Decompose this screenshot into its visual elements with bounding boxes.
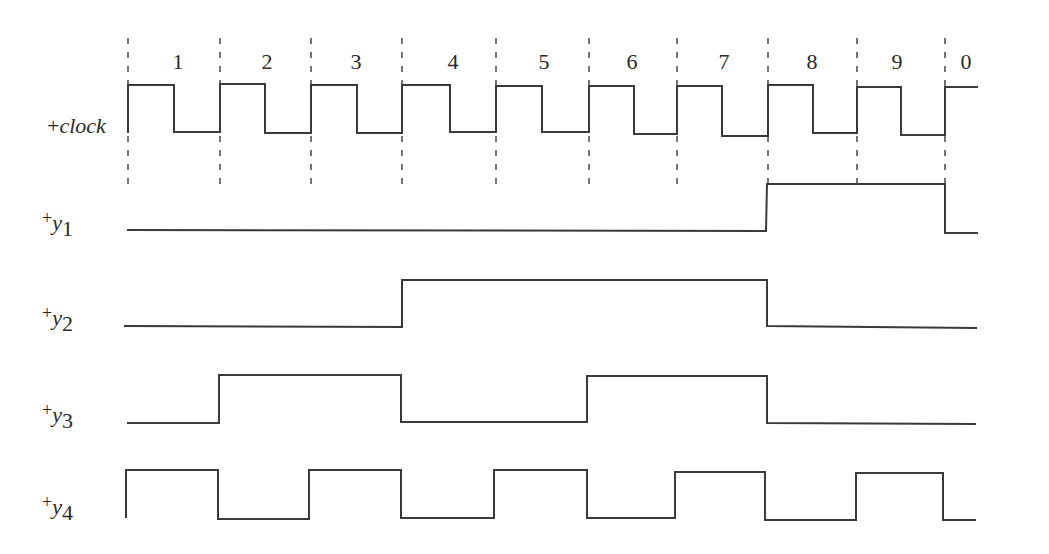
y4-waveform bbox=[126, 470, 976, 520]
y1-waveform bbox=[127, 184, 978, 233]
period-labels: 1 2 3 4 5 6 7 8 9 0 bbox=[173, 49, 972, 74]
period-label: 8 bbox=[807, 49, 818, 74]
signal-label-y1: +y1 bbox=[42, 208, 73, 241]
period-label: 3 bbox=[351, 49, 362, 74]
y2-waveform bbox=[124, 280, 977, 328]
period-label: 6 bbox=[627, 49, 638, 74]
period-label: 4 bbox=[448, 49, 459, 74]
timing-diagram: 1 2 3 4 5 6 7 8 9 0 +clock +y1 +y2 +y3 +… bbox=[0, 0, 1049, 554]
signal-label-y3: +y3 bbox=[42, 400, 73, 433]
signal-label-clock: +clock bbox=[47, 113, 107, 138]
clock-edge-guides bbox=[128, 38, 945, 192]
signal-label-y2: +y2 bbox=[42, 303, 73, 336]
y3-waveform bbox=[127, 375, 976, 424]
period-label: 7 bbox=[719, 49, 730, 74]
period-label: 9 bbox=[892, 49, 903, 74]
clock-waveform bbox=[128, 84, 978, 136]
signal-label-y4: +y4 bbox=[42, 492, 73, 525]
period-label: 1 bbox=[173, 49, 184, 74]
period-label: 5 bbox=[539, 49, 550, 74]
signal-labels: +clock +y1 +y2 +y3 +y4 bbox=[42, 113, 107, 525]
period-label: 2 bbox=[262, 49, 273, 74]
period-label: 0 bbox=[961, 49, 972, 74]
